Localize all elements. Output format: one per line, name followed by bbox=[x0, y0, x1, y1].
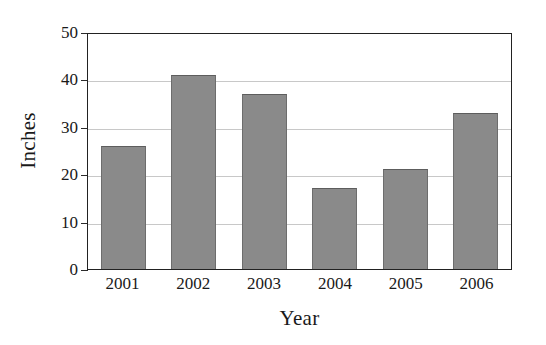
x-axis-tick-label: 2004 bbox=[299, 274, 370, 294]
y-axis-tick-label: 40 bbox=[44, 70, 78, 90]
bar-2003[interactable] bbox=[242, 94, 287, 269]
y-axis-tick-label: 30 bbox=[44, 118, 78, 138]
y-axis-tick-labels: 01020304050 bbox=[44, 0, 78, 345]
chart-canvas: Inches 01020304050 200120022003200420052… bbox=[0, 0, 546, 345]
bar-slot bbox=[229, 34, 300, 269]
bar-2002[interactable] bbox=[171, 75, 216, 269]
plot-area bbox=[87, 33, 512, 270]
y-axis-tick-label: 10 bbox=[44, 213, 78, 233]
bar-slot bbox=[370, 34, 441, 269]
bar-slot bbox=[88, 34, 159, 269]
bar-slot bbox=[159, 34, 230, 269]
x-axis-tick-label: 2005 bbox=[370, 274, 441, 294]
y-axis-title: Inches bbox=[10, 0, 46, 280]
bar-2001[interactable] bbox=[101, 146, 146, 269]
bar-series bbox=[88, 34, 511, 269]
x-axis-tick-label: 2001 bbox=[87, 274, 158, 294]
x-axis-title: Year bbox=[87, 306, 512, 331]
x-axis-tick-labels: 200120022003200420052006 bbox=[87, 274, 512, 294]
bar-2004[interactable] bbox=[312, 188, 357, 269]
x-axis-tick-label: 2003 bbox=[229, 274, 300, 294]
y-axis-tick-mark bbox=[81, 270, 88, 271]
y-axis-tick-label: 20 bbox=[44, 165, 78, 185]
y-axis-tick-label: 50 bbox=[44, 23, 78, 43]
bar-2005[interactable] bbox=[383, 169, 428, 269]
bar-slot bbox=[441, 34, 512, 269]
x-axis-tick-label: 2002 bbox=[158, 274, 229, 294]
y-axis-tick-label: 0 bbox=[44, 260, 78, 280]
y-axis-title-text: Inches bbox=[16, 112, 41, 169]
bar-slot bbox=[300, 34, 371, 269]
bar-2006[interactable] bbox=[453, 113, 498, 269]
x-axis-tick-label: 2006 bbox=[441, 274, 512, 294]
